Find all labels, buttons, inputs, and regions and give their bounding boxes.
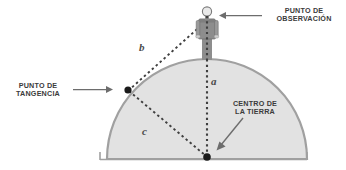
arrow-to-tangency [73, 86, 113, 93]
label-segment-c: c [142, 125, 147, 137]
arrow-to-observer-head [219, 12, 226, 19]
label-punto-de-observacion: PUNTO DE OBSERVACIÓN [264, 7, 344, 24]
label-punto-de-tangencia: PUNTO DE TANGENCIA [2, 82, 74, 99]
label-segment-b: b [139, 41, 145, 53]
observer-figure [196, 7, 219, 60]
figure-left-hand [196, 35, 200, 38]
tangency-point-dot [124, 86, 131, 93]
arrow-to-observer [219, 12, 262, 19]
figure-right-arm [215, 21, 219, 37]
label-segment-a: a [211, 75, 217, 87]
diagram-canvas: PUNTO DE OBSERVACIÓN PUNTO DE TANGENCIA … [0, 0, 346, 170]
figure-right-hand [214, 35, 218, 38]
figure-left-arm [196, 21, 200, 37]
earth-center-dot [203, 153, 211, 161]
figure-head [202, 7, 211, 16]
arrow-to-tangency-head [106, 86, 113, 93]
label-centro-de-la-tierra: CENTRO DE LA TIERRA [218, 100, 292, 117]
